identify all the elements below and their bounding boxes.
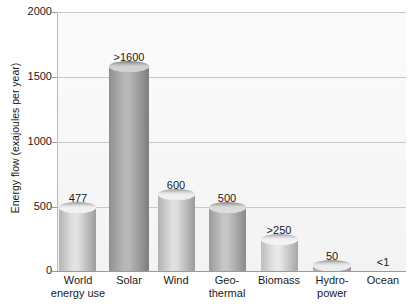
- category-label: Biomass: [251, 274, 307, 287]
- category-label-line: energy use: [44, 287, 112, 300]
- bar-value-label: 50: [304, 250, 360, 262]
- y-axis-title: Energy flow (exajoules per year): [9, 13, 21, 263]
- bar-body: [209, 207, 246, 271]
- bar: [59, 207, 96, 271]
- x-axis-line: [57, 271, 406, 272]
- category-label-line: Hydro-: [304, 274, 360, 287]
- bar-value-label: >1600: [101, 51, 157, 63]
- y-axis-tick-labels: 2000150010005000: [0, 0, 52, 305]
- bar: [261, 239, 298, 271]
- bar: [209, 207, 246, 271]
- category-label: Hydro-power: [304, 274, 360, 300]
- bar: [158, 194, 195, 271]
- bar-value-label: <1: [355, 256, 411, 268]
- bar-body: [158, 194, 195, 271]
- category-label-line: thermal: [199, 287, 255, 300]
- gridline: [57, 12, 406, 13]
- bar-value-label: >250: [251, 224, 307, 236]
- energy-flow-bar-chart: 2000150010005000 Energy flow (exajoules …: [0, 0, 418, 305]
- category-label-line: power: [304, 287, 360, 300]
- bar-body: [59, 207, 96, 271]
- category-label-line: Geo-: [199, 274, 255, 287]
- bar-value-label: 477: [50, 192, 106, 204]
- y-axis-tick-mark: [52, 207, 57, 208]
- category-label-line: Wind: [148, 274, 204, 287]
- bar-body: [109, 66, 149, 271]
- category-label-line: Ocean: [355, 274, 411, 287]
- y-axis-tick-mark: [52, 12, 57, 13]
- y-axis-tick-mark: [52, 271, 57, 272]
- bar-value-label: 500: [199, 192, 255, 204]
- bar-value-label: 600: [148, 179, 204, 191]
- category-label: Wind: [148, 274, 204, 287]
- bar: [109, 66, 149, 271]
- y-axis-tick-mark: [52, 77, 57, 78]
- category-label: Geo-thermal: [199, 274, 255, 300]
- category-label-line: Biomass: [251, 274, 307, 287]
- category-label: Ocean: [355, 274, 411, 287]
- y-axis-tick-mark: [52, 142, 57, 143]
- bar: [313, 265, 351, 271]
